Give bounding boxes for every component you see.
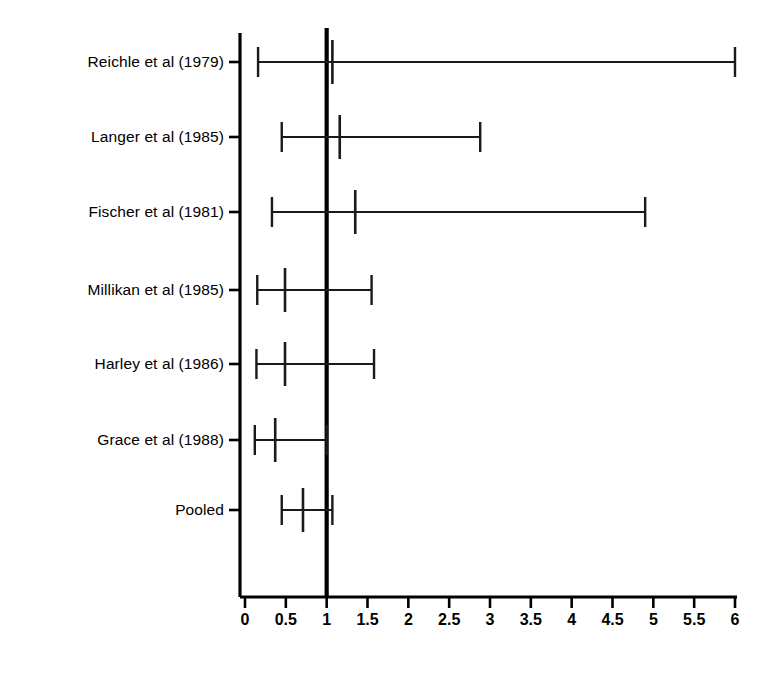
x-axis-label-11: 5.5 <box>683 611 705 629</box>
forest-row-0 <box>258 40 735 84</box>
study-label-harley-et-al-1986: Harley et al (1986) <box>95 355 224 373</box>
x-axis-label-8: 4 <box>567 611 576 629</box>
study-label-langer-et-al-1985: Langer et al (1985) <box>91 128 224 146</box>
forest-plot-canvas <box>0 0 771 674</box>
study-label-fischer-et-al-1981: Fischer et al (1981) <box>88 203 224 221</box>
x-axis-label-4: 2 <box>404 611 413 629</box>
x-axis-label-9: 4.5 <box>601 611 623 629</box>
forest-plot: Reichle et al (1979)Langer et al (1985)F… <box>0 0 771 674</box>
x-axis-label-2: 1 <box>322 611 331 629</box>
study-label-millikan-et-al-1985: Millikan et al (1985) <box>88 281 225 299</box>
x-axis-label-7: 3.5 <box>520 611 542 629</box>
x-axis-label-0: 0 <box>241 611 250 629</box>
x-axis-label-5: 2.5 <box>438 611 460 629</box>
study-label-grace-et-al-1988: Grace et al (1988) <box>97 431 224 449</box>
forest-row-5 <box>255 418 327 462</box>
x-axis-label-1: 0.5 <box>275 611 297 629</box>
study-label-reichle-et-al-1979: Reichle et al (1979) <box>88 53 224 71</box>
x-axis-label-3: 1.5 <box>356 611 378 629</box>
forest-row-4 <box>256 342 374 386</box>
forest-row-3 <box>257 268 371 312</box>
study-label-pooled: Pooled <box>175 501 224 519</box>
x-axis-label-6: 3 <box>486 611 495 629</box>
forest-row-1 <box>282 115 480 159</box>
x-axis-label-10: 5 <box>649 611 658 629</box>
x-axis-label-12: 6 <box>731 611 740 629</box>
